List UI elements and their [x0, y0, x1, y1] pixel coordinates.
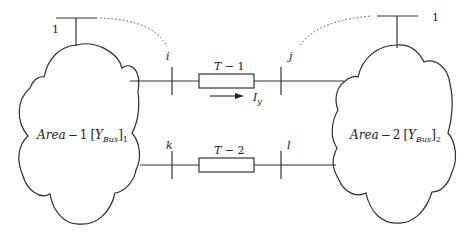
- tie-line-1-impedance-box: [199, 74, 254, 88]
- diagram-canvas: 1 1 i j T − 1 Iy k l T − 2 Area−1[YBus]1…: [0, 0, 470, 237]
- area-2-dotted-connection: [300, 16, 372, 45]
- current-arrow-icon: [235, 93, 244, 99]
- area-2-reference-bus-label: 1: [432, 11, 439, 24]
- bus-k-label: k: [166, 139, 173, 152]
- bus-i-label: i: [166, 50, 170, 63]
- tie-line-1-label: T − 1: [214, 60, 245, 73]
- area-1-reference-bus-label: 1: [52, 23, 59, 36]
- bus-j-label: j: [286, 50, 293, 63]
- area-1-dotted-connection: [100, 18, 167, 47]
- current-label: Iy: [252, 91, 262, 106]
- tie-line-2-impedance-box: [199, 158, 254, 172]
- bus-l-label: l: [287, 139, 291, 152]
- tie-line-2-label: T − 2: [214, 144, 245, 157]
